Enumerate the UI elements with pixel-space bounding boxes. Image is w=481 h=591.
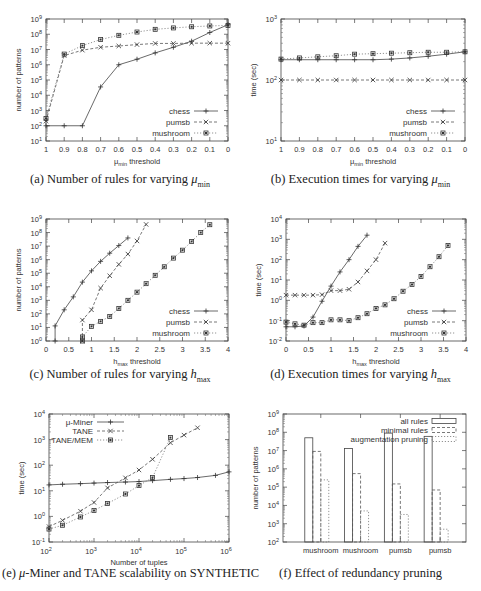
svg-text:4: 4 [464, 345, 468, 354]
svg-text:0.2: 0.2 [186, 145, 196, 154]
svg-text:101: 101 [34, 486, 45, 496]
chart-d-plot: 10-210-110010110210310400.511.522.533.54… [240, 195, 481, 360]
svg-text:102: 102 [271, 255, 282, 265]
svg-text:106: 106 [31, 255, 42, 265]
caption-c: (c) Number of rules for varying hmax [0, 367, 240, 384]
bar [392, 484, 400, 542]
svg-text:1: 1 [329, 345, 333, 354]
bar [424, 436, 432, 542]
svg-text:0.5: 0.5 [303, 345, 313, 354]
series-pumsb [80, 222, 148, 343]
legend-label: augmentation pruning [351, 435, 428, 444]
svg-text:0.4: 0.4 [386, 145, 396, 154]
chart-b-plot: 10110210310.90.80.70.60.50.40.30.20.10μm… [240, 0, 481, 165]
svg-text:102: 102 [40, 546, 51, 556]
bar [305, 438, 313, 542]
legend-label: mushroom [390, 329, 428, 338]
svg-text:1: 1 [44, 145, 48, 154]
svg-text:0.7: 0.7 [95, 145, 105, 154]
legend: chesspumsbmushroom [390, 307, 456, 338]
svg-text:102: 102 [268, 537, 279, 547]
svg-text:10-1: 10-1 [32, 537, 45, 547]
svg-text:1.5: 1.5 [348, 345, 358, 354]
x-axis-label: μmin threshold [114, 157, 160, 167]
svg-text:3: 3 [419, 345, 423, 354]
category-label: pumsb [429, 546, 452, 555]
svg-text:107: 107 [31, 241, 42, 251]
series-pumsb [284, 241, 387, 297]
svg-text:101: 101 [31, 136, 42, 146]
bar [345, 448, 353, 542]
svg-text:0.6: 0.6 [114, 145, 124, 154]
svg-text:103: 103 [34, 435, 45, 445]
caption-f: (f) Effect of redundancy pruning [240, 566, 481, 581]
y-axis-label: number of patterns [14, 48, 23, 111]
chart-f: 102103104105106107108109number of patter… [240, 390, 481, 591]
series-mushroom [80, 223, 211, 343]
svg-text:102: 102 [31, 121, 42, 131]
y-axis-label: time (sec) [17, 461, 26, 494]
x-axis-label: μmin threshold [350, 157, 396, 167]
x-axis-label: hmax threshold [352, 357, 400, 367]
series-chess [44, 22, 231, 128]
chart-a-plot: 10110210310410510610710810910.90.80.70.6… [0, 0, 240, 165]
svg-text:101: 101 [271, 275, 282, 285]
legend-label: chess [406, 107, 427, 116]
legend-label: mushroom [389, 129, 427, 138]
svg-text:104: 104 [130, 546, 141, 556]
legend-label: pumsb [166, 318, 191, 327]
bar [321, 480, 329, 542]
svg-text:101: 101 [266, 136, 277, 146]
svg-text:0.2: 0.2 [423, 145, 433, 154]
svg-text:0: 0 [44, 345, 48, 354]
svg-text:0.5: 0.5 [368, 145, 378, 154]
svg-text:1: 1 [89, 345, 93, 354]
svg-text:2.5: 2.5 [155, 345, 165, 354]
caption-a: (a) Number of rules for varying μmin [0, 172, 240, 189]
legend-label: pumsb [166, 118, 191, 127]
legend-label: mushroom [152, 329, 190, 338]
legend-label: chess [169, 107, 190, 116]
svg-text:0: 0 [226, 145, 230, 154]
plot-frame [46, 219, 228, 341]
svg-text:105: 105 [175, 546, 186, 556]
svg-text:109: 109 [31, 14, 42, 24]
bar [400, 514, 408, 542]
bar [432, 490, 440, 542]
svg-text:2: 2 [374, 345, 378, 354]
svg-text:3.5: 3.5 [438, 345, 448, 354]
svg-text:0.7: 0.7 [331, 145, 341, 154]
svg-text:108: 108 [268, 427, 279, 437]
legend-label: mushroom [152, 129, 190, 138]
y-axis-label: time (sec) [254, 263, 263, 296]
series-tane-mem [47, 436, 172, 531]
chart-e-plot: 10-1100101102103104102103104105106Number… [0, 390, 240, 560]
svg-text:100: 100 [271, 295, 282, 305]
legend-label: chess [169, 307, 190, 316]
chart-d: 10-210-110010110210310400.511.522.533.54… [240, 195, 481, 390]
svg-text:104: 104 [31, 90, 42, 100]
svg-text:0.9: 0.9 [59, 145, 69, 154]
svg-text:104: 104 [268, 500, 279, 510]
svg-text:0.5: 0.5 [64, 345, 74, 354]
category-label: mushroom [343, 546, 378, 555]
legend: chesspumsbmushroom [152, 107, 218, 138]
svg-text:2: 2 [135, 345, 139, 354]
series-mushroom [44, 23, 230, 120]
svg-text:10-2: 10-2 [269, 336, 282, 346]
svg-text:10-1: 10-1 [269, 316, 282, 326]
series-pumsb [279, 78, 467, 82]
bar [440, 529, 448, 542]
chart-c-plot: 10010110210310410510610710810900.511.522… [0, 195, 240, 360]
legend-label: chess [407, 307, 428, 316]
legend: μ-MinerTANETANE/MEM [51, 418, 124, 445]
bar [353, 474, 361, 542]
svg-text:102: 102 [31, 309, 42, 319]
category-label: pumsb [389, 546, 412, 555]
chart-f-plot: 102103104105106107108109number of patter… [240, 390, 481, 560]
svg-text:104: 104 [31, 282, 42, 292]
svg-text:105: 105 [31, 75, 42, 85]
bar [313, 451, 321, 542]
svg-text:0: 0 [463, 145, 467, 154]
svg-text:103: 103 [268, 519, 279, 529]
